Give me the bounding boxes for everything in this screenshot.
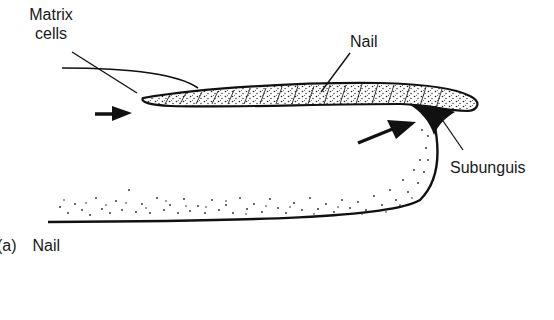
matrix-leader-line [72,52,137,93]
fingertip-outline [48,122,437,222]
subunguis-leader-line [441,118,463,150]
matrix-cells-label: Matrix cells [22,5,80,43]
nail-label: Nail [350,32,378,51]
caption-prefix: (a) [0,237,17,254]
proximal-nail-fold [62,68,198,88]
nail-anatomy-diagram: Matrix cells Nail Subunguis (a)Nail [0,0,554,320]
figure-caption: (a)Nail [0,236,60,255]
subunguis-arrow-icon [358,120,416,143]
subunguis-label: Subunguis [450,158,526,177]
caption-title: Nail [33,237,61,254]
finger-tissue-stipple [59,129,429,216]
matrix-arrow-icon [95,106,132,121]
matrix-label-line2: cells [22,24,80,43]
matrix-label-line1: Matrix [22,5,80,24]
